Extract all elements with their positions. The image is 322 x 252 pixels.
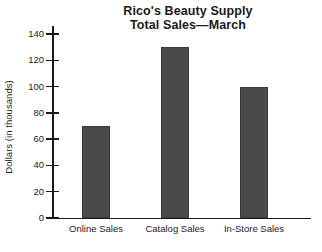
y-axis-tick-label: 40	[0, 160, 44, 170]
y-axis-tick-label-text: 20	[2, 187, 44, 197]
y-axis-tick-label-text: 80	[2, 108, 44, 118]
y-axis-tick	[46, 217, 59, 218]
y-axis-tick-label: 140	[0, 29, 44, 39]
bar-in-store-sales	[240, 87, 268, 218]
y-axis-tick-label: 80	[0, 108, 44, 118]
y-axis-tick-label-text: 100	[2, 82, 44, 92]
y-axis-tick-label-text: 120	[2, 55, 44, 65]
y-axis-tick	[46, 165, 59, 166]
y-axis-tick-label-text: 40	[2, 160, 44, 170]
y-axis-tick-label-text: 140	[2, 29, 44, 39]
category-label: In-Store Sales	[204, 223, 304, 234]
y-axis-tick-label: 120	[0, 55, 44, 65]
bar-catalog-sales	[161, 47, 189, 218]
y-axis-tick-label: 100	[0, 82, 44, 92]
y-axis-tick-label-text: 0	[2, 213, 44, 223]
chart-title-line-1: Rico's Beauty Supply	[54, 4, 322, 18]
y-axis-tick	[46, 112, 59, 113]
y-axis-tick-label: 0	[0, 213, 44, 223]
y-axis-tick-label: 60	[0, 134, 44, 144]
y-axis-tick-label: 20	[0, 187, 44, 197]
y-axis-tick-label-text: 60	[2, 134, 44, 144]
bar-online-sales	[82, 126, 110, 218]
chart-title-line-2: Total Sales—March	[54, 18, 322, 32]
y-axis-tick	[46, 60, 59, 61]
bar-chart: Rico's Beauty Supply Total Sales—March D…	[0, 0, 322, 252]
y-axis-tick	[46, 86, 59, 87]
chart-title: Rico's Beauty Supply Total Sales—March	[54, 4, 322, 32]
y-axis-tick	[46, 191, 59, 192]
y-axis-tick	[46, 138, 59, 139]
y-axis-tick	[46, 33, 59, 34]
